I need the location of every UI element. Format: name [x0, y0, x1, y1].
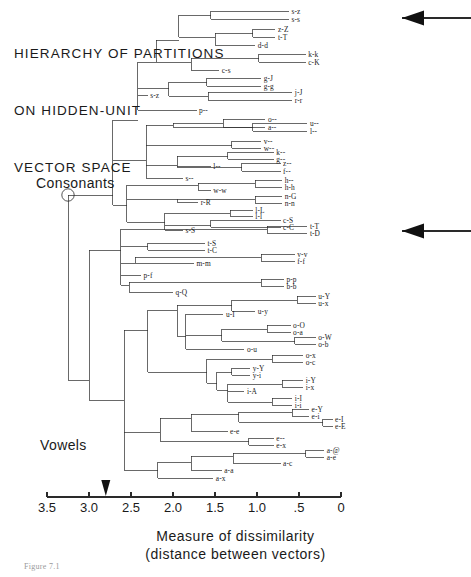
leaf-label: t-C	[207, 246, 217, 255]
axis-caption-line-1: Measure of dissimilarity	[0, 527, 471, 545]
leaf-label: c-C	[283, 223, 294, 232]
axis-tick-label: 1.5	[206, 500, 224, 515]
axis-tick-label: 2.5	[122, 500, 140, 515]
leaf-label: i-i	[295, 401, 302, 410]
leaf-label: a-a	[224, 466, 234, 475]
leaf-label: o-b	[318, 340, 328, 349]
leaf-label: q-Q	[176, 288, 188, 297]
leaf-label: i-A	[247, 387, 258, 396]
leaf-label: t-T	[278, 33, 288, 42]
leaf-label: a-x	[216, 474, 226, 483]
leaf-label: u-x	[318, 299, 328, 308]
leaf-label: o-u	[247, 345, 257, 354]
leaf-label: o-a	[293, 328, 303, 337]
consonants-group-label: Consonants	[36, 175, 115, 191]
leaf-label: h-h	[285, 183, 295, 192]
leaf-label: d-d	[258, 41, 268, 50]
leaf-label: u-y	[258, 307, 268, 316]
vowels-group-label: Vowels	[40, 437, 87, 453]
title-line-1: HIERARCHY OF PARTITIONS	[14, 44, 225, 63]
axis-tick-label: 2.0	[164, 500, 182, 515]
axis-caption: Measure of dissimilarity (distance betwe…	[0, 527, 471, 563]
leaf-label: y-i	[253, 371, 262, 380]
leaf-label: t-D	[310, 229, 321, 238]
leaf-label: l--	[310, 127, 318, 136]
leaf-label: e-E	[335, 422, 346, 431]
leaf-label: e-e	[230, 427, 240, 436]
axis-tick-label: 3.0	[80, 500, 98, 515]
leaf-label: a-c	[283, 459, 293, 468]
leaf-label: i-x	[306, 383, 315, 392]
leaf-label: e-i	[312, 412, 320, 421]
leaf-label: n-n	[285, 199, 295, 208]
arrow-middle-head	[402, 224, 424, 239]
arrow-top-head	[402, 11, 424, 26]
leaf-label: g-g	[264, 82, 274, 91]
leaf-label: l-l	[255, 212, 262, 221]
axis-tick-label: .5	[294, 500, 305, 515]
leaf-label: w--	[264, 144, 275, 153]
leaf-label: f-f	[297, 257, 305, 266]
cut-level-marker	[101, 480, 110, 496]
leaf-label: p-f	[144, 271, 153, 280]
leaf-label: a-e	[327, 453, 337, 462]
figure-caption: Figure 7.1	[24, 562, 60, 571]
leaf-label: c-K	[308, 58, 320, 67]
leaf-label: a--	[268, 123, 277, 132]
axis-tick-label: 3.5	[38, 500, 56, 515]
axis-caption-line-2: (distance between vectors)	[0, 545, 471, 563]
leaf-label: s-S	[186, 226, 196, 235]
axis-tick-label: 1.0	[248, 500, 266, 515]
dendrogram-figure: HIERARCHY OF PARTITIONS ON HIDDEN-UNIT V…	[0, 0, 471, 577]
leaf-label: f--	[283, 167, 291, 176]
leaf-label: u-I	[226, 310, 235, 319]
leaf-label: s-s	[291, 15, 300, 24]
axis-tick-label: 0	[337, 500, 344, 515]
leaf-label: o-c	[306, 358, 316, 367]
leaf-label: e-x	[276, 441, 286, 450]
leaf-label: b-b	[286, 282, 296, 291]
leaf-label: r-r	[295, 96, 303, 105]
leaf-label: m-m	[197, 259, 211, 268]
title-line-2: ON HIDDEN-UNIT	[14, 101, 225, 120]
